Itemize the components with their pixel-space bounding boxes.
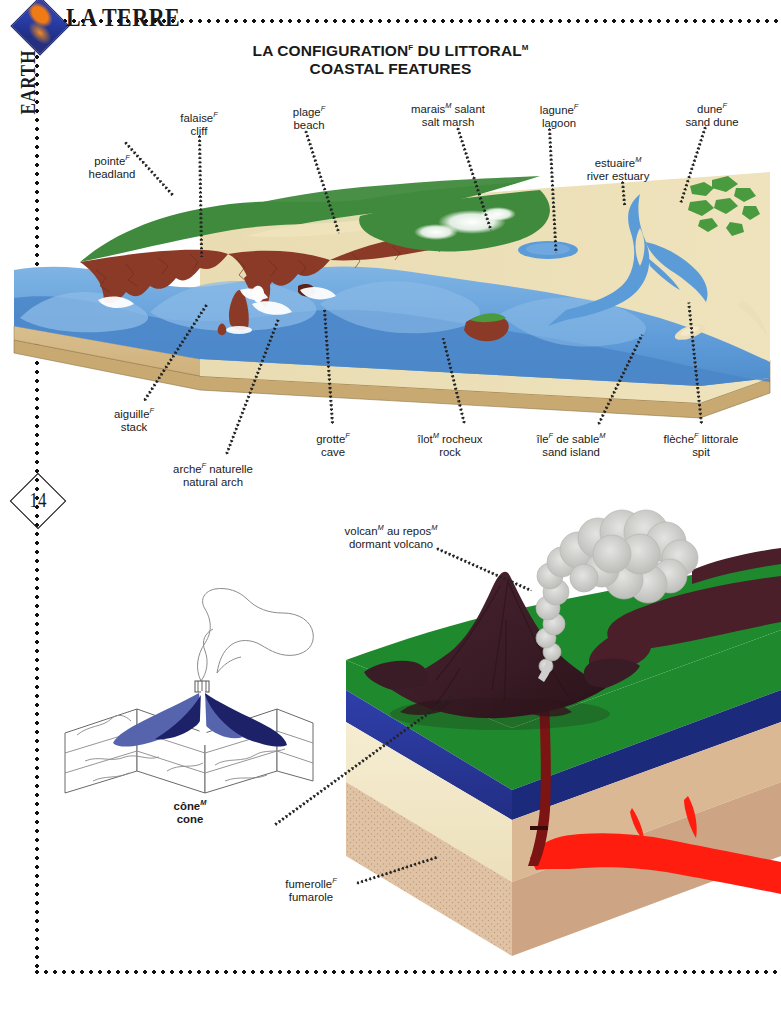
label-en: salt marsh bbox=[411, 116, 485, 129]
label-en: spit bbox=[664, 446, 739, 459]
label-lagune: laguneF lagoon bbox=[540, 100, 579, 131]
label-en: stack bbox=[114, 421, 154, 434]
label-en: dormant volcano bbox=[345, 538, 438, 551]
page-title-english: COASTAL FEATURES bbox=[0, 61, 781, 77]
gender-marker: F bbox=[149, 406, 154, 415]
label-en: natural arch bbox=[173, 476, 253, 489]
label-grotte: grotteF cave bbox=[316, 429, 350, 460]
label-aiguille: aiguilleF stack bbox=[114, 404, 154, 435]
gender-marker: F bbox=[574, 102, 579, 111]
label-pointe: pointeF headland bbox=[89, 151, 136, 182]
gender-marker: F bbox=[332, 876, 337, 885]
label-en: headland bbox=[89, 168, 136, 181]
label-estuaire: estuaireM river estuary bbox=[587, 153, 650, 184]
page-title-french: LA CONFIGURATIONF DU LITTORALM bbox=[253, 42, 529, 59]
label-plage: plageF beach bbox=[293, 102, 325, 133]
label-falaise: falaiseF cliff bbox=[180, 108, 217, 139]
label-arche-naturelle: archeF naturelle natural arch bbox=[173, 459, 253, 490]
label-en: rock bbox=[417, 446, 482, 459]
label-volcan-au-repos: volcanM au reposM dormant volcano bbox=[345, 521, 438, 552]
label-en: river estuary bbox=[587, 170, 650, 183]
gender-marker: M bbox=[200, 798, 206, 807]
label-dune: duneF sand dune bbox=[685, 99, 738, 130]
label-en: fumarole bbox=[285, 891, 336, 904]
gender-marker: F bbox=[213, 110, 218, 119]
page-title: LA CONFIGURATIONF DU LITTORALM COASTAL F… bbox=[0, 40, 781, 77]
label-en: cave bbox=[316, 446, 350, 459]
gender-marker-2: M bbox=[431, 523, 437, 532]
label-fumerolle: fumerolleF fumarole bbox=[285, 874, 336, 905]
brand-title: LA TERRE bbox=[66, 5, 180, 31]
coastal-features-illustration bbox=[0, 150, 781, 425]
label-en: sand dune bbox=[685, 116, 738, 129]
gender-marker: F bbox=[321, 104, 326, 113]
label-marais-salant: maraisM salant salt marsh bbox=[411, 99, 485, 130]
gender-marker: F bbox=[345, 431, 350, 440]
label-en: sand island bbox=[537, 446, 606, 459]
frame-dots-bottom bbox=[35, 970, 781, 974]
gender-marker: F bbox=[125, 153, 130, 162]
label-en: lagoon bbox=[540, 117, 579, 130]
gender-marker-2: M bbox=[599, 431, 605, 440]
page-root: LA TERRE EARTH LA CONFIGURATIONF DU LITT… bbox=[0, 0, 781, 1017]
page-number-badge: 14 bbox=[18, 481, 58, 521]
label-ilot-rocheux: îlotM rocheux rock bbox=[417, 429, 482, 460]
label-ile-de-sable: îleF de sableM sand island bbox=[537, 429, 606, 460]
dormant-volcano-illustration bbox=[340, 490, 781, 960]
label-en: cone bbox=[174, 813, 207, 826]
label-fleche-littorale: flècheF littorale spit bbox=[664, 429, 739, 460]
gender-marker: M bbox=[635, 155, 641, 164]
cone-illustration bbox=[55, 585, 325, 795]
page-number-text: 14 bbox=[18, 477, 58, 525]
gender-marker-m: M bbox=[522, 43, 529, 52]
label-en: beach bbox=[293, 119, 325, 132]
gender-marker: F bbox=[722, 101, 727, 110]
label-cone: côneM cone bbox=[174, 796, 207, 827]
